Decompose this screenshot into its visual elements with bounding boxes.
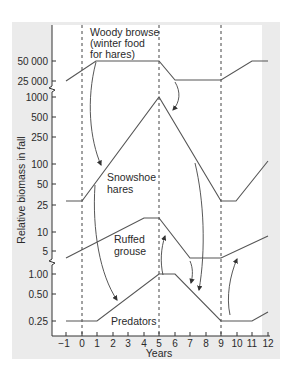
annotation-line: hares: [107, 183, 133, 195]
x-tick-label: 8: [203, 338, 209, 349]
plot-area: [52, 25, 262, 336]
x-tick-label: 11: [247, 338, 258, 349]
x-tick-label: 3: [125, 338, 131, 349]
x-tick-label: 12: [262, 338, 274, 349]
x-tick-label: −1: [58, 338, 70, 349]
x-tick-label: 2: [110, 338, 116, 349]
y-tick-label: 50 000: [17, 56, 48, 67]
x-tick-label: 0: [79, 338, 85, 349]
x-tick-label: 1: [94, 338, 100, 349]
y-tick-label: 10: [37, 227, 49, 238]
figure: 50 000 25 000 1000 500 250 100 50 25 10 …: [0, 0, 301, 380]
y-tick-label: 1.00: [29, 269, 49, 280]
y-tick-label: 5: [42, 246, 48, 257]
y-axis-title: Relative biomass in fall: [15, 136, 27, 243]
annotation-line: Snowshoe: [107, 171, 156, 183]
y-tick-label: 0.50: [29, 289, 49, 300]
annotation-line: for hares): [90, 48, 135, 60]
x-tick-label: 6: [172, 338, 178, 349]
y-tick-label: 0.25: [29, 316, 49, 327]
y-tick-label: 50: [37, 179, 49, 190]
x-tick-label: 7: [187, 338, 193, 349]
y-tick-label: 500: [31, 112, 48, 123]
x-tick-label: 10: [231, 338, 243, 349]
y-tick-label: 100: [31, 159, 48, 170]
y-tick-label: 25: [37, 200, 49, 211]
annotation-predators: Predators: [111, 315, 157, 327]
x-axis-title: Years: [146, 347, 172, 359]
y-tick-label: 1000: [26, 92, 49, 103]
y-tick-label: 25 000: [17, 76, 48, 87]
x-tick-label: 9: [218, 338, 224, 349]
y-tick-label: 250: [31, 132, 48, 143]
annotation-line: Ruffed: [114, 233, 145, 245]
annotation-line: grouse: [114, 245, 146, 257]
annotation-ruffed-grouse: Ruffed grouse: [114, 233, 146, 257]
